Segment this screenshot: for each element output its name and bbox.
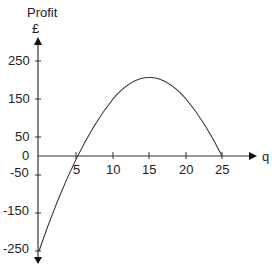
profit-curve [39,78,222,252]
y-tick-label: 150 [8,91,30,106]
y-axis-arrow-down-icon [34,257,42,264]
y-tick-label: -250 [3,241,29,256]
y-axis-unit: £ [32,21,40,36]
profit-chart: Profit £ q 250 150 50 0 -50 -150 -250 5 … [0,0,272,264]
x-axis-title: q [262,149,269,164]
y-tick-label: 250 [8,53,30,68]
x-tick-label: 5 [73,162,80,177]
x-tick-label: 25 [215,162,229,177]
x-tick-label: 15 [142,162,156,177]
x-tick-label: 10 [106,162,120,177]
y-axis-arrow-up-icon [34,37,42,45]
y-tick-label: -50 [10,165,29,180]
y-tick-label: 50 [15,129,29,144]
y-tick-label: -150 [3,203,29,218]
x-tick-label: 20 [179,162,193,177]
y-axis-title: Profit [27,5,58,20]
x-axis-arrow-icon [249,152,257,160]
y-tick-label: 0 [22,148,29,163]
